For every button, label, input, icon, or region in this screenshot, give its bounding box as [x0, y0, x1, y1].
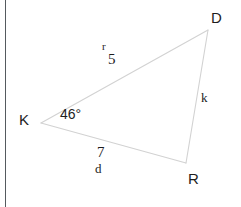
vertex-label-d: D	[211, 10, 222, 25]
vertex-label-k: K	[19, 112, 29, 127]
angle-label-k: 46°	[60, 107, 81, 121]
side-length-kd: 5	[108, 52, 116, 67]
vertex-label-r: R	[188, 171, 199, 186]
side-length-kr: 7	[97, 145, 105, 160]
side-label-r: r	[102, 41, 106, 52]
side-label-k: k	[201, 91, 208, 104]
triangle-diagram: D K R r 5 k 7 d 46°	[0, 0, 241, 207]
side-kr-line	[41, 123, 186, 163]
side-label-d: d	[95, 162, 102, 175]
